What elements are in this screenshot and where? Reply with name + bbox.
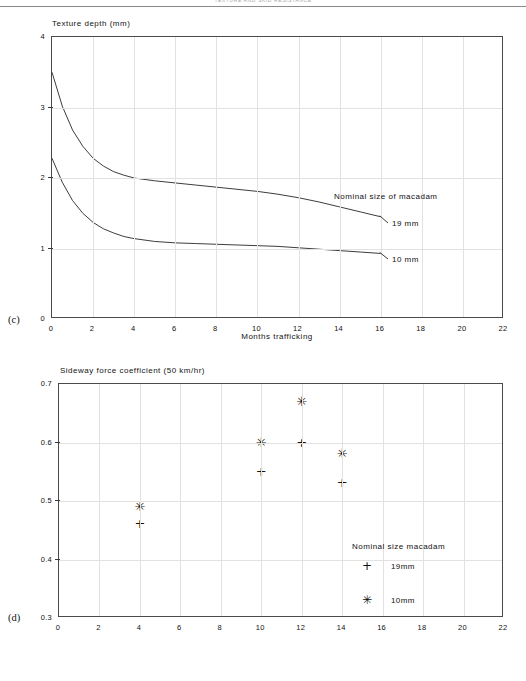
chart-d-xtick-20: 20 xyxy=(458,623,467,632)
chart-c-xtick-4: 4 xyxy=(131,324,135,333)
chart-d-gridline-v xyxy=(180,384,181,616)
chart-c-gridline-v xyxy=(93,37,94,317)
chart-c-series-label-10mm: 10 mm xyxy=(392,255,419,264)
chart-d-gridline-h xyxy=(59,560,502,561)
chart-d-y-axis-title: Sideway force coefficient (50 km/hr) xyxy=(60,366,205,375)
chart-c-xtick-8: 8 xyxy=(213,324,217,333)
header-rule xyxy=(0,6,526,7)
chart-c-ytick-3: 3 xyxy=(29,102,45,111)
chart-c-ytick-mark xyxy=(48,107,53,108)
chart-d-gridline-v xyxy=(464,384,465,616)
chart-d-legend-marker-asterisk: ✳ xyxy=(362,593,372,607)
chart-d-ytick-0.6: 0.6 xyxy=(27,437,52,446)
chart-d-gridline-v xyxy=(140,384,141,616)
figure-c: Texture depth (mm) 024681012141618202201… xyxy=(0,14,526,358)
chart-d-xtick-10: 10 xyxy=(256,623,265,632)
figure-page: TEXTURE AND SKID RESISTANCE Texture dept… xyxy=(0,0,526,681)
chart-c-ytick-1: 1 xyxy=(29,243,45,252)
chart-c-y-axis-title: Texture depth (mm) xyxy=(52,19,130,28)
chart-d-xtick-2: 2 xyxy=(96,623,100,632)
chart-d-ytick-mark xyxy=(55,500,60,501)
chart-c-gridline-v xyxy=(299,37,300,317)
chart-d-ytick-mark xyxy=(55,442,60,443)
chart-d-gridline-h xyxy=(59,443,502,444)
chart-c-gridline-v xyxy=(257,37,258,317)
chart-d-xtick-16: 16 xyxy=(377,623,386,632)
chart-d-xtick-0: 0 xyxy=(56,623,60,632)
chart-c-xtick-22: 22 xyxy=(499,324,508,333)
chart-d-xtick-22: 22 xyxy=(499,623,508,632)
chart-d-ytick-0.7: 0.7 xyxy=(27,379,52,388)
chart-d-gridline-v xyxy=(342,384,343,616)
chart-c-gridline-v xyxy=(134,37,135,317)
chart-d-xtick-18: 18 xyxy=(418,623,427,632)
chart-c-gridline-v xyxy=(216,37,217,317)
chart-c-xtick-6: 6 xyxy=(172,324,176,333)
chart-c-plot-area xyxy=(51,36,503,318)
chart-c-ytick-2: 2 xyxy=(29,173,45,182)
chart-d-legend-label-10mm: 10mm xyxy=(391,596,415,605)
chart-d-plot-area: ++++✳✳✳✳ xyxy=(58,383,503,617)
chart-c-x-axis-label: Months trafficking xyxy=(241,332,313,341)
chart-c-gridline-v xyxy=(175,37,176,317)
chart-d-gridline-v xyxy=(261,384,262,616)
running-head: TEXTURE AND SKID RESISTANCE xyxy=(0,0,526,4)
chart-d-xtick-14: 14 xyxy=(337,623,346,632)
chart-c-xtick-2: 2 xyxy=(90,324,94,333)
chart-c-gridline-h xyxy=(52,108,502,109)
chart-d-gridline-v xyxy=(221,384,222,616)
chart-d-legend-label-19mm: 19mm xyxy=(391,562,415,571)
chart-d-legend-marker-plus: + xyxy=(362,559,372,573)
chart-d-ytick-0.4: 0.4 xyxy=(27,554,52,563)
chart-c-xtick-20: 20 xyxy=(457,324,466,333)
chart-d-panel-letter: (d) xyxy=(8,612,20,623)
chart-d-gridline-v xyxy=(383,384,384,616)
chart-c-gridline-v xyxy=(463,37,464,317)
chart-c-ytick-mark xyxy=(48,177,53,178)
chart-c-xtick-16: 16 xyxy=(375,324,384,333)
chart-c-ytick-4: 4 xyxy=(29,32,45,41)
chart-d-legend-title: Nominal size macadam xyxy=(352,542,445,551)
chart-d-xtick-4: 4 xyxy=(137,623,141,632)
chart-c-xtick-0: 0 xyxy=(49,324,53,333)
chart-c-xtick-14: 14 xyxy=(334,324,343,333)
chart-d-gridline-v xyxy=(99,384,100,616)
chart-d-xtick-6: 6 xyxy=(177,623,181,632)
chart-c-legend-title: Nominal size of macadam xyxy=(334,192,438,201)
figure-d: Sideway force coefficient (50 km/hr) +++… xyxy=(0,360,526,681)
chart-d-gridline-v xyxy=(302,384,303,616)
chart-c-gridline-h xyxy=(52,178,502,179)
chart-c-gridline-h xyxy=(52,249,502,250)
chart-c-gridline-v xyxy=(422,37,423,317)
chart-c-series-label-19mm: 19 mm xyxy=(392,219,419,228)
chart-d-xtick-12: 12 xyxy=(296,623,305,632)
chart-c-gridline-v xyxy=(381,37,382,317)
chart-c-gridline-v xyxy=(340,37,341,317)
chart-c-ytick-mark xyxy=(48,248,53,249)
chart-d-gridline-v xyxy=(423,384,424,616)
chart-c-xtick-18: 18 xyxy=(416,324,425,333)
chart-d-xtick-8: 8 xyxy=(218,623,222,632)
chart-d-gridline-h xyxy=(59,501,502,502)
chart-d-ytick-0.5: 0.5 xyxy=(27,496,52,505)
chart-d-ytick-mark xyxy=(55,559,60,560)
chart-c-panel-letter: (c) xyxy=(8,314,20,325)
chart-c-ytick-0: 0 xyxy=(29,314,45,323)
chart-d-ytick-0.3: 0.3 xyxy=(27,613,52,622)
